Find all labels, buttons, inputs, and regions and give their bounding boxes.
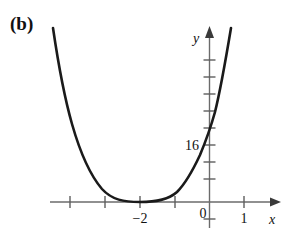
x-tick-label--2: −2 [133, 211, 148, 226]
y-axis-arrowhead [205, 26, 214, 38]
x-axis-arrowhead [270, 198, 281, 207]
x-axis-label: x [268, 212, 276, 227]
x-tick-label-1: 1 [241, 211, 248, 226]
y-axis-label: y [191, 31, 200, 46]
figure-panel-b: (b) [0, 0, 295, 238]
x-tick-label-0: 0 [200, 206, 207, 221]
y-tick-label-16: 16 [185, 138, 199, 153]
polynomial-curve [53, 28, 231, 202]
plot-canvas: x y −2 0 1 16 [0, 0, 295, 238]
